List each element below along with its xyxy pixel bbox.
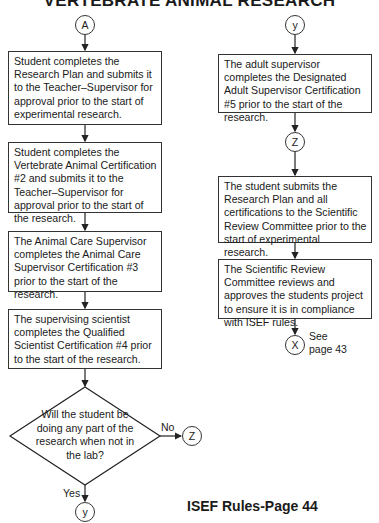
step-research-plan: Student completes the Research Plan and … (8, 51, 162, 125)
step-vertebrate-certification: Student completes the Vertebrate Animal … (8, 142, 162, 213)
decision-no-label: No (161, 421, 174, 434)
decision-question: Will the student be doing any part of th… (28, 408, 142, 462)
page-footer: ISEF Rules-Page 44 (187, 498, 318, 514)
see-page-line2: page 43 (309, 343, 347, 356)
connector-z-mid: Z (285, 132, 305, 152)
step-qualified-scientist-certification: The supervising scientist completes the … (8, 309, 162, 369)
connector-a: A (75, 15, 95, 35)
connector-z-no: Z (182, 426, 202, 446)
step-animal-care-certification: The Animal Care Supervisor completes the… (8, 231, 162, 292)
step-designated-adult-supervisor: The adult supervisor completes the Desig… (218, 54, 372, 113)
step-submit-to-src: The student submits the Research Plan an… (218, 176, 372, 243)
connector-x-end: X (285, 335, 305, 355)
see-page-line1: See (309, 330, 328, 343)
connector-y-top: y (285, 15, 305, 35)
step-src-review: The Scientific Review Committee reviews … (218, 259, 372, 319)
decision-yes-label: Yes (63, 487, 80, 500)
connector-y-bottom: y (75, 502, 95, 522)
